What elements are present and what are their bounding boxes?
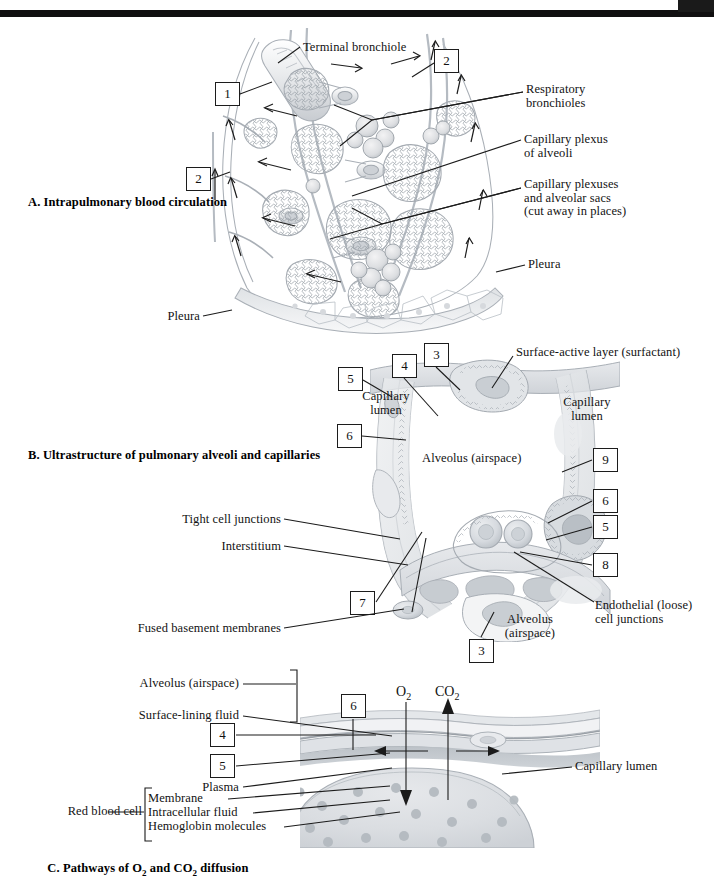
number-box-b-8[interactable]: 8 <box>593 553 618 577</box>
label-hemoglobin-molecules: Hemoglobin molecules <box>148 820 266 834</box>
carbon-dioxide-arrow-label: CO2 <box>435 684 459 702</box>
label-surface-active-layer: Surface-active layer (surfactant) <box>516 346 680 360</box>
panel-c-gas-diffusion: O2 CO2 C. Pathways of O2 and CO2 diffusi… <box>0 660 714 875</box>
panel-c-title-mid: and CO <box>147 861 193 875</box>
label-surface-lining-fluid: Surface-lining fluid <box>129 709 239 723</box>
lung-lobule-drawing <box>195 20 525 340</box>
label-fused-basement-membranes: Fused basement membranes <box>101 622 281 636</box>
oxygen-formula-sub: 2 <box>406 691 411 702</box>
label-alveolus-airspace: Alveolus (airspace) <box>129 677 239 691</box>
panel-a-illustration <box>195 20 525 340</box>
number-box-c-6[interactable]: 6 <box>341 694 366 718</box>
panel-a-section-title: A. Intrapulmonary blood circulation <box>28 195 227 210</box>
label-endothelial-loose-cell-junctions: Endothelial (loose) cell junctions <box>595 599 692 626</box>
label-capillary-lumen-right: Capillary lumen <box>556 396 618 423</box>
number-box-b-9[interactable]: 9 <box>593 448 618 472</box>
scan-corner-black-block <box>678 0 714 12</box>
number-box-b-6-left[interactable]: 6 <box>337 424 362 448</box>
co2-formula-main: CO <box>435 684 454 699</box>
number-box-b-7[interactable]: 7 <box>350 591 375 615</box>
label-capillary-plexus-of-alveoli: Capillary plexus of alveoli <box>524 133 608 160</box>
number-box-b-5-right[interactable]: 5 <box>593 515 618 539</box>
number-box-a-2-left[interactable]: 2 <box>186 167 211 191</box>
panel-c-title-prefix: C. Pathways of O <box>47 861 142 875</box>
label-pleura-bottom: Pleura <box>138 310 200 324</box>
label-capillary-plexuses-and-alveolar-sacs: Capillary plexuses and alveolar sacs (cu… <box>524 178 626 219</box>
number-box-a-1[interactable]: 1 <box>215 82 240 106</box>
panel-c-section-title: C. Pathways of O2 and CO2 diffusion <box>28 846 248 880</box>
number-box-b-3-top[interactable]: 3 <box>424 343 449 367</box>
alveolus-bracket <box>290 670 297 722</box>
number-box-b-4[interactable]: 4 <box>392 354 417 378</box>
label-red-blood-cell: Red blood cell <box>39 805 142 819</box>
number-box-b-6-right[interactable]: 6 <box>593 489 618 513</box>
oxygen-formula-main: O <box>396 684 406 699</box>
label-pleura-right: Pleura <box>528 258 561 272</box>
panel-b-alveolar-ultrastructure: B. Ultrastructure of pulmonary alveoli a… <box>0 340 714 660</box>
panel-a-intrapulmonary-blood-circulation: A. Intrapulmonary blood circulation Term… <box>0 20 714 340</box>
label-alveolus-airspace-center: Alveolus (airspace) <box>422 452 521 466</box>
label-intracellular-fluid: Intracellular fluid <box>148 806 238 820</box>
label-membrane: Membrane <box>148 792 203 806</box>
label-alveolus-airspace-lower: Alveolus (airspace) <box>500 613 560 640</box>
number-box-b-5-left[interactable]: 5 <box>338 367 363 391</box>
label-capillary-lumen: Capillary lumen <box>575 760 657 774</box>
label-capillary-lumen-left: Capillary lumen <box>356 390 416 417</box>
label-terminal-bronchiole: Terminal bronchiole <box>303 41 406 55</box>
panel-b-section-title: B. Ultrastructure of pulmonary alveoli a… <box>28 448 320 463</box>
oxygen-arrow-label: O2 <box>396 684 411 702</box>
label-interstitium: Interstitium <box>181 540 281 554</box>
panel-c-title-suffix: diffusion <box>197 861 248 875</box>
label-respiratory-bronchioles: Respiratory bronchioles <box>526 83 585 110</box>
number-box-a-2-top[interactable]: 2 <box>434 49 459 73</box>
label-tight-cell-junctions: Tight cell junctions <box>161 513 281 527</box>
number-box-c-4[interactable]: 4 <box>210 723 235 747</box>
number-box-c-5[interactable]: 5 <box>210 754 235 778</box>
scan-edge-black-bar <box>0 10 714 17</box>
co2-formula-sub: 2 <box>454 691 459 702</box>
